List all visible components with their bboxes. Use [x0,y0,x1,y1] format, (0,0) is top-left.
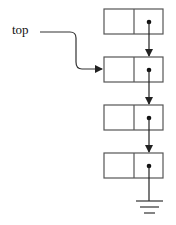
list-node-0 [104,9,163,34]
top-pointer-arrow [40,32,102,69]
top-pointer-label: top [12,22,29,37]
list-node-1 [104,57,163,82]
list-node-2 [104,105,163,130]
linked-list-diagram: top [0,0,176,225]
list-node-3 [104,153,163,178]
ground-null-icon [136,201,163,213]
